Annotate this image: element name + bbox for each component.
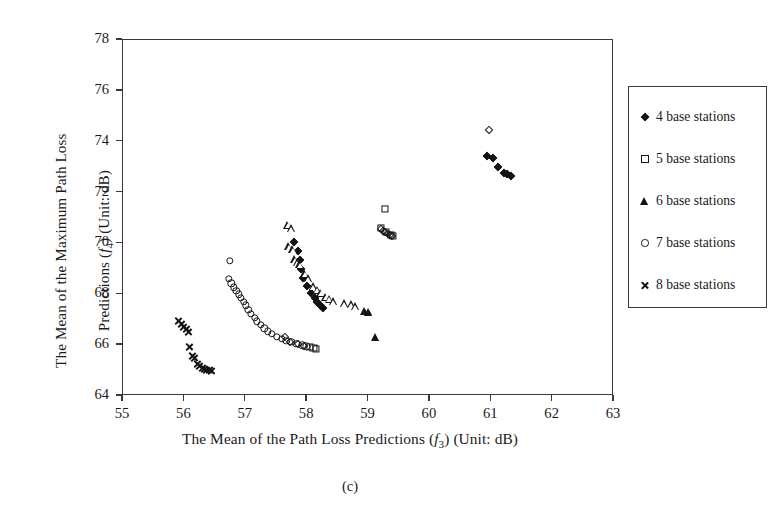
legend-label: 5 base stations xyxy=(656,151,735,167)
data-point xyxy=(329,297,337,305)
data-point xyxy=(490,155,496,161)
y-tick-label: 74 xyxy=(77,132,109,149)
data-point xyxy=(486,127,492,133)
y-tick-mark xyxy=(116,191,122,192)
legend-marker-slot xyxy=(639,197,651,205)
diamond-marker-icon xyxy=(489,153,498,162)
y-tick-mark xyxy=(116,343,122,344)
y-tick-label: 76 xyxy=(77,81,109,98)
x-tick-label: 59 xyxy=(352,405,384,422)
data-point xyxy=(312,345,319,352)
legend-marker-slot xyxy=(639,155,651,162)
x-tick-label: 58 xyxy=(290,405,322,422)
square-marker-icon xyxy=(390,233,397,240)
x-tick-label: 63 xyxy=(597,405,629,422)
legend-item-square[interactable]: 5 base stations xyxy=(639,151,735,167)
triangle-marker-icon xyxy=(289,245,297,253)
x-tick-mark xyxy=(244,395,245,401)
data-point xyxy=(372,333,380,341)
x-tick-label: 60 xyxy=(413,405,445,422)
legend-box: 4 base stations5 base stations6 base sta… xyxy=(628,86,767,308)
cross-marker-icon xyxy=(641,281,650,290)
x-tick-mark xyxy=(305,395,306,401)
data-point xyxy=(381,206,388,213)
x-tick-label: 57 xyxy=(229,405,261,422)
legend-item-cross[interactable]: 8 base stations xyxy=(639,277,735,293)
y-axis-title-line1: The Mean of the Maximum Path Loss xyxy=(52,133,69,367)
diamond-marker-icon xyxy=(641,113,650,122)
figure-container: The Mean of the Maximum Path Loss Predic… xyxy=(0,0,777,527)
data-point xyxy=(226,257,233,264)
data-point xyxy=(289,245,297,253)
cross-marker-icon xyxy=(184,327,193,336)
legend-label: 4 base stations xyxy=(656,109,735,125)
data-point xyxy=(390,233,397,240)
circle-marker-icon xyxy=(226,257,233,264)
triangle-marker-icon xyxy=(641,197,649,205)
legend-label: 7 base stations xyxy=(656,235,735,251)
y-axis-title-line2-post: ) (Unit: dB) xyxy=(95,170,112,243)
y-tick-label: 66 xyxy=(77,335,109,352)
y-tick-label: 78 xyxy=(77,30,109,47)
y-tick-label: 64 xyxy=(77,386,109,403)
x-tick-mark xyxy=(121,395,122,401)
y-tick-mark xyxy=(116,140,122,141)
y-tick-label: 70 xyxy=(77,233,109,250)
data-point xyxy=(305,274,313,282)
y-tick-mark xyxy=(116,89,122,90)
x-axis-title: The Mean of the Path Loss Predictions (f… xyxy=(90,430,610,450)
diamond-marker-icon xyxy=(485,126,494,135)
legend-label: 6 base stations xyxy=(656,193,735,209)
triangle-marker-icon xyxy=(305,274,313,282)
diamond-marker-icon xyxy=(506,171,515,180)
plot-area xyxy=(122,39,613,395)
data-point xyxy=(507,173,513,179)
triangle-marker-icon xyxy=(351,302,359,310)
triangle-marker-icon xyxy=(365,308,373,316)
triangle-marker-icon xyxy=(372,333,380,341)
x-tick-label: 62 xyxy=(536,405,568,422)
x-axis-title-post: ) (Unit: dB) xyxy=(444,430,518,447)
cross-marker-icon xyxy=(185,342,194,351)
y-tick-label: 72 xyxy=(77,183,109,200)
diamond-marker-icon xyxy=(319,304,328,313)
x-axis-title-pre: The Mean of the Path Loss Predictions ( xyxy=(182,430,434,447)
x-tick-label: 56 xyxy=(167,405,199,422)
y-axis-title: The Mean of the Maximum Path Loss Predic… xyxy=(28,61,117,441)
figure-subcaption: (c) xyxy=(90,478,610,495)
x-tick-mark xyxy=(367,395,368,401)
data-point xyxy=(351,302,359,310)
legend-label: 8 base stations xyxy=(656,277,735,293)
x-tick-mark xyxy=(428,395,429,401)
legend-marker-slot xyxy=(639,114,651,120)
legend-item-diamond[interactable]: 4 base stations xyxy=(639,109,735,125)
y-tick-mark xyxy=(116,38,122,39)
x-tick-mark xyxy=(612,395,613,401)
square-marker-icon xyxy=(312,345,319,352)
data-point xyxy=(207,366,216,375)
x-tick-mark xyxy=(551,395,552,401)
data-point xyxy=(365,308,373,316)
y-tick-label: 68 xyxy=(77,284,109,301)
circle-marker-icon xyxy=(302,342,309,349)
circle-marker-icon xyxy=(641,239,648,246)
square-marker-icon xyxy=(381,206,388,213)
legend-item-triangle[interactable]: 6 base stations xyxy=(639,193,735,209)
triangle-marker-icon xyxy=(287,224,295,232)
data-point xyxy=(184,327,193,336)
x-tick-label: 55 xyxy=(106,405,138,422)
data-point xyxy=(287,224,295,232)
data-point xyxy=(296,260,304,268)
data-point xyxy=(185,342,194,351)
x-tick-label: 61 xyxy=(474,405,506,422)
cross-marker-icon xyxy=(207,366,216,375)
data-point xyxy=(320,305,326,311)
triangle-marker-icon xyxy=(329,297,337,305)
legend-marker-slot xyxy=(639,239,651,246)
y-tick-mark xyxy=(116,242,122,243)
legend-item-circle[interactable]: 7 base stations xyxy=(639,235,735,251)
square-marker-icon xyxy=(641,155,648,162)
legend-marker-slot xyxy=(639,281,651,290)
y-tick-mark xyxy=(116,293,122,294)
triangle-marker-icon xyxy=(296,260,304,268)
